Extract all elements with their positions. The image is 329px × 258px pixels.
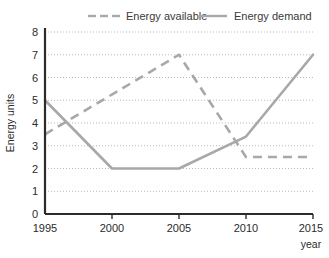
y-tick-label-2: 2 <box>32 163 38 175</box>
y-tick-label-7: 7 <box>32 49 38 61</box>
x-tick-label-2015: 2015 <box>299 222 323 234</box>
y-tick-label-4: 4 <box>32 117 38 129</box>
chart-canvas: Energy available Energy demand <box>0 0 329 258</box>
x-axis-title: year <box>301 238 322 250</box>
y-tick-label-3: 3 <box>32 140 38 152</box>
y-axis-tick-labels: 0 1 2 3 4 5 6 7 8 <box>32 26 38 220</box>
x-tick-label-1995: 1995 <box>33 222 57 234</box>
x-tick-label-2000: 2000 <box>100 222 124 234</box>
legend-label-energy-available: Energy available <box>126 10 207 22</box>
y-tick-label-8: 8 <box>32 26 38 38</box>
legend-label-energy-demand: Energy demand <box>234 10 312 22</box>
line-chart-figure: Energy available Energy demand <box>0 0 329 258</box>
y-tick-label-5: 5 <box>32 94 38 106</box>
x-tick-label-2010: 2010 <box>234 222 258 234</box>
y-axis-title: Energy units <box>4 94 16 152</box>
x-tick-label-2005: 2005 <box>167 222 191 234</box>
y-tick-label-6: 6 <box>32 72 38 84</box>
chart-background <box>0 0 329 258</box>
y-tick-label-0: 0 <box>32 208 38 220</box>
y-tick-label-1: 1 <box>32 185 38 197</box>
